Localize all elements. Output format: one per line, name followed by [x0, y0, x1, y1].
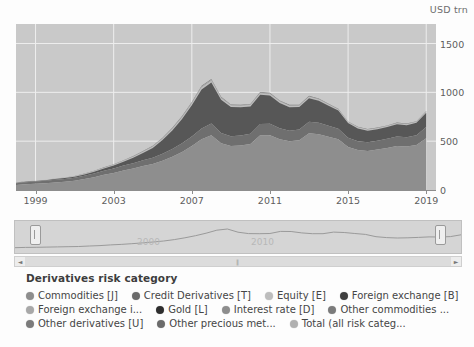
legend-row: Other derivatives [U]Other precious met.… [26, 318, 464, 329]
legend-swatch-icon [328, 306, 336, 314]
y-axis-unit-label: USD trn [430, 4, 468, 15]
x-tick-mark [36, 190, 37, 194]
legend: Derivatives risk category Commodities [J… [26, 272, 464, 329]
x-tick-label: 2007 [180, 195, 204, 206]
x-tick-mark [192, 190, 193, 194]
legend-label: Other derivatives [U] [38, 318, 143, 329]
plot-area[interactable] [16, 24, 436, 190]
legend-label: Total (all risk categ... [302, 318, 406, 329]
scroll-left-arrow-icon[interactable]: ◄ [15, 257, 25, 266]
legend-row: Commodities [J]Credit Derivatives [T]Equ… [26, 290, 464, 301]
navigator-handle-right[interactable] [435, 225, 446, 245]
horizontal-scrollbar[interactable]: ◄ ‖ ► [14, 256, 462, 267]
legend-item[interactable]: Other precious met... [157, 318, 275, 329]
legend-items: Commodities [J]Credit Derivatives [T]Equ… [26, 290, 464, 329]
navigator-year-label-right: 2010 [251, 237, 274, 247]
x-tick-mark [114, 190, 115, 194]
legend-item[interactable]: Other commodities ... [328, 304, 449, 315]
legend-label: Commodities [J] [38, 290, 118, 301]
x-tick-label: 2015 [336, 195, 360, 206]
chart-screenshot: USD trn 050010001500 1999200320072011201… [0, 0, 474, 347]
x-tick-mark [426, 190, 427, 194]
x-tick-label: 2011 [258, 195, 282, 206]
range-navigator[interactable]: 2000 2010 [14, 220, 462, 254]
legend-item[interactable]: Interest rate [D] [222, 304, 315, 315]
x-axis-ticks: 199920032007201120152019 [0, 190, 474, 212]
legend-item[interactable]: Commodities [J] [26, 290, 118, 301]
navigator-line [15, 229, 461, 248]
x-tick-mark [270, 190, 271, 194]
legend-label: Gold [L] [168, 304, 208, 315]
y-tick-label: 500 [440, 136, 458, 147]
navigator-handle-left[interactable] [30, 225, 41, 245]
legend-swatch-icon [340, 292, 348, 300]
navigator-sparkline [15, 221, 461, 253]
legend-title: Derivatives risk category [26, 272, 464, 284]
x-tick-label: 1999 [23, 195, 47, 206]
main-chart: USD trn 050010001500 1999200320072011201… [0, 0, 474, 212]
legend-label: Interest rate [D] [234, 304, 315, 315]
stacked-area-svg [16, 24, 436, 190]
legend-item[interactable]: Foreign exchange [B] [340, 290, 459, 301]
legend-swatch-icon [157, 320, 165, 328]
legend-swatch-icon [26, 292, 34, 300]
legend-label: Foreign exchange i... [38, 304, 142, 315]
scrollbar-grip-icon[interactable]: ‖ [236, 259, 240, 265]
legend-label: Other commodities ... [340, 304, 449, 315]
legend-label: Equity [E] [277, 290, 326, 301]
legend-label: Credit Derivatives [T] [144, 290, 251, 301]
legend-label: Other precious met... [169, 318, 275, 329]
legend-swatch-icon [132, 292, 140, 300]
legend-swatch-icon [26, 320, 34, 328]
legend-swatch-icon [26, 306, 34, 314]
legend-item[interactable]: Gold [L] [156, 304, 208, 315]
legend-item[interactable]: Foreign exchange i... [26, 304, 142, 315]
legend-item[interactable]: Total (all risk categ... [290, 318, 406, 329]
y-tick-label: 1500 [440, 38, 464, 49]
legend-item[interactable]: Credit Derivatives [T] [132, 290, 251, 301]
legend-item[interactable]: Other derivatives [U] [26, 318, 143, 329]
legend-row: Foreign exchange i...Gold [L]Interest ra… [26, 304, 464, 315]
legend-item[interactable]: Equity [E] [265, 290, 326, 301]
legend-swatch-icon [265, 292, 273, 300]
navigator-year-label-left: 2000 [137, 237, 160, 247]
y-axis-labels: 050010001500 [440, 24, 474, 194]
legend-swatch-icon [222, 306, 230, 314]
x-tick-label: 2019 [414, 195, 438, 206]
legend-label: Foreign exchange [B] [352, 290, 459, 301]
x-tick-label: 2003 [102, 195, 126, 206]
legend-swatch-icon [290, 320, 298, 328]
y-tick-label: 1000 [440, 87, 464, 98]
scroll-right-arrow-icon[interactable]: ► [451, 257, 461, 266]
legend-swatch-icon [156, 306, 164, 314]
x-tick-mark [348, 190, 349, 194]
